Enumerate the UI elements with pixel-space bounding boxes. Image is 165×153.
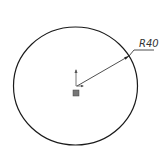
sketch-canvas[interactable]: R40 (0, 0, 165, 153)
dimension-label[interactable]: R40 (139, 38, 159, 49)
sketch-circle[interactable] (14, 27, 138, 145)
dimension-shoulder-line (129, 50, 134, 56)
origin-point-icon (73, 90, 79, 96)
radius-dimension[interactable]: R40 (77, 38, 159, 86)
dimension-leader-line (77, 56, 129, 86)
